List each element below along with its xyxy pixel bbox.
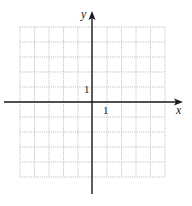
y-tick-label: 1	[84, 83, 90, 95]
x-axis-label: x	[175, 103, 182, 117]
y-axis-label: y	[80, 7, 87, 21]
x-tick-label: 1	[103, 104, 109, 116]
coordinate-plane: y x 1 1	[0, 0, 192, 206]
